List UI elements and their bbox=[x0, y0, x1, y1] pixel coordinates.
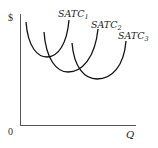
x-axis-label: Q bbox=[126, 129, 134, 140]
satc2-curve bbox=[44, 29, 98, 72]
y-axis-label: $ bbox=[8, 12, 13, 23]
origin-label: 0 bbox=[8, 126, 13, 137]
satc3-curve bbox=[72, 41, 126, 79]
chart: $ 0 Q SATC1 SATC2 SATC3 bbox=[0, 0, 158, 148]
satc1-label: SATC1 bbox=[58, 8, 89, 21]
satc3-label: SATC3 bbox=[118, 30, 149, 43]
